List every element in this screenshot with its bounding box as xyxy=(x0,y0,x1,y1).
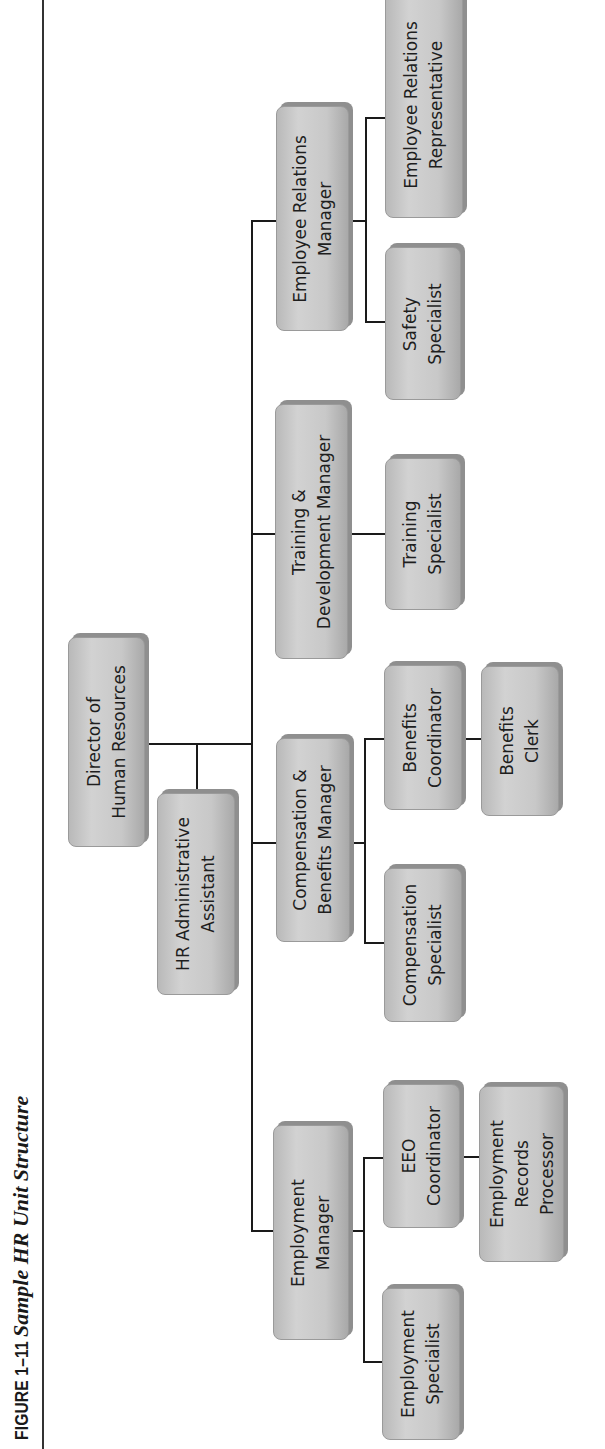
connector-director-trunk xyxy=(145,743,253,745)
node-label-line: Specialist xyxy=(423,493,448,575)
node-label-line: Employment xyxy=(396,1310,421,1418)
connector-safety xyxy=(365,321,386,323)
figure-caption: FIGURE 1–11 Sample HR Unit Structure xyxy=(0,0,42,1449)
connector-employment-manager xyxy=(251,1230,275,1232)
node-hr-admin-assistant: HR AdministrativeAssistant xyxy=(157,793,235,995)
connector-hr-admin xyxy=(196,743,198,793)
node-label-line: Assistant xyxy=(196,817,221,971)
node-label-line: Benefits Manager xyxy=(313,765,338,915)
node-director: Director ofHuman Resources xyxy=(68,637,145,847)
connector-em-vertical xyxy=(363,1157,365,1363)
node-label-line: Coordinator xyxy=(423,687,448,787)
node-label-line: Employment xyxy=(286,1179,311,1287)
node-label-line: Training xyxy=(398,493,423,575)
connector-employment-specialist xyxy=(363,1361,382,1363)
node-label-line: Benefits xyxy=(398,687,423,787)
figure-caption-text: FIGURE 1–11 Sample HR Unit Structure xyxy=(8,1096,34,1440)
node-training-dev-manager: Training &Development Manager xyxy=(275,404,348,659)
connector-er-vertical xyxy=(365,117,367,323)
node-label-line: Processor xyxy=(534,1120,559,1228)
node-label-line: EEO xyxy=(397,1106,422,1206)
node-label-line: Records xyxy=(509,1120,534,1228)
node-label-line: Benefits xyxy=(495,706,520,776)
node-label-line: HR Administrative xyxy=(171,817,196,971)
connector-comp-benefits-manager xyxy=(251,842,278,844)
node-employment-manager: EmploymentManager xyxy=(273,1125,349,1340)
connector-benefits-coordinator xyxy=(364,738,385,740)
node-label-line: Clerk xyxy=(520,706,545,776)
node-label-line: Coordinator xyxy=(422,1106,447,1206)
connector-eeo xyxy=(363,1157,385,1159)
connector-training-manager xyxy=(251,533,276,535)
connector-comp-specialist xyxy=(364,942,385,944)
figure-number: FIGURE 1–11 xyxy=(11,1341,33,1440)
node-label-line: Manager xyxy=(313,135,338,303)
node-label-line: Manager xyxy=(311,1179,336,1287)
node-label-line: Compensation & xyxy=(288,765,313,915)
node-employment-records-processor: EmploymentRecordsProcessor xyxy=(479,1086,564,1262)
node-label-line: Specialist xyxy=(423,283,448,365)
node-label-line: Employee Relations xyxy=(399,21,424,189)
node-label-line: Training & xyxy=(287,434,312,628)
node-training-specialist: TrainingSpecialist xyxy=(385,458,461,610)
node-label-line: Safety xyxy=(398,283,423,365)
node-benefits-coordinator: BenefitsCoordinator xyxy=(384,665,462,810)
node-label-line: Specialist xyxy=(423,884,448,1007)
node-label-line: Development Manager xyxy=(312,434,337,628)
node-label-line: Director of xyxy=(82,665,107,819)
node-label-line: Representative xyxy=(424,21,449,189)
node-employment-specialist: EmploymentSpecialist xyxy=(382,1288,460,1440)
node-eeo-coordinator: EEOCoordinator xyxy=(383,1084,460,1228)
node-safety-specialist: SafetySpecialist xyxy=(385,247,461,400)
connector-cb-vertical xyxy=(364,738,366,944)
node-label-line: Compensation xyxy=(398,884,423,1007)
node-label-line: Specialist xyxy=(421,1310,446,1418)
node-comp-benefits-manager: Compensation &Benefits Manager xyxy=(276,738,350,942)
node-label-line: Human Resources xyxy=(107,665,132,819)
node-employee-relations-rep: Employee RelationsRepresentative xyxy=(385,0,463,218)
node-benefits-clerk: BenefitsClerk xyxy=(481,666,559,816)
node-employee-relations-manager: Employee RelationsManager xyxy=(276,106,349,331)
caption-divider xyxy=(42,0,44,1449)
node-label-line: Employee Relations xyxy=(288,135,313,303)
node-compensation-specialist: CompensationSpecialist xyxy=(384,868,462,1022)
connector-er-rep xyxy=(365,117,386,119)
node-label-line: Employment xyxy=(484,1120,509,1228)
connector-trunk xyxy=(251,220,253,1232)
connector-er-manager xyxy=(251,220,278,222)
figure-title: Sample HR Unit Structure xyxy=(8,1096,33,1337)
connector-training-specialist xyxy=(348,533,386,535)
